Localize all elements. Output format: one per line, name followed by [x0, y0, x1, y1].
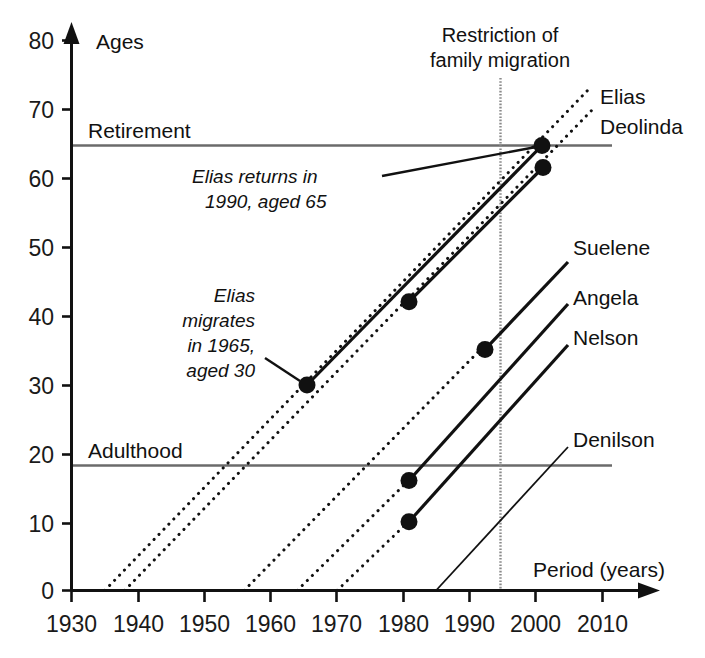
- y-tick-label: 50: [28, 235, 54, 261]
- annot-migrates-line4: aged 30: [186, 360, 255, 381]
- deolinda-point-1980: [401, 293, 418, 310]
- x-tick-label: 1940: [113, 611, 164, 637]
- axes: [62, 22, 660, 602]
- series-elias: Elias: [105, 85, 646, 591]
- series-nelson: Nelson: [337, 326, 638, 591]
- series-label-denilson: Denilson: [573, 428, 655, 451]
- y-tick-label: 60: [28, 166, 54, 192]
- annot-migrates-line2: migrates: [182, 310, 255, 331]
- nelson-solid-segment: [409, 345, 568, 522]
- elias-point-1965: [299, 377, 316, 394]
- y-tick-label: 10: [28, 511, 54, 537]
- y-tick-label: 20: [28, 442, 54, 468]
- suelene-solid-segment: [485, 262, 568, 349]
- retirement-label: Retirement: [88, 119, 191, 142]
- elias-point-2000: [534, 137, 551, 154]
- series-label-suelene: Suelene: [573, 236, 650, 259]
- x-tick-label: 1960: [245, 611, 296, 637]
- y-tick-label: 30: [28, 373, 54, 399]
- elias-dotted-segment-2: [311, 90, 588, 377]
- annot-returns-line2: 1990, aged 65: [205, 191, 327, 212]
- angela-dotted-segment: [297, 484, 405, 591]
- x-axis-arrow: [638, 583, 660, 599]
- chart-canvas: 80 70 60 50 40 30 20 10 0 1930 1940 1950…: [0, 0, 705, 658]
- x-tick-labels: 1930 1940 1950 1960 1970 1980 1990 2000 …: [46, 611, 628, 637]
- event-title-line1: Restriction of: [442, 24, 559, 46]
- annotation-elias-migrates: Elias migrates in 1965, aged 30: [182, 285, 300, 381]
- y-tick-label: 70: [28, 97, 54, 123]
- x-tick-label: 1930: [46, 611, 97, 637]
- y-tick-label: 80: [28, 28, 54, 54]
- x-tick-label: 2010: [577, 611, 628, 637]
- angela-point-1980: [401, 472, 418, 489]
- suelene-point-1991: [477, 341, 494, 358]
- deolinda-point-2000: [535, 159, 552, 176]
- angela-solid-segment: [409, 304, 568, 481]
- nelson-dotted-segment: [337, 525, 405, 591]
- life-course-chart: 80 70 60 50 40 30 20 10 0 1930 1940 1950…: [0, 0, 705, 658]
- x-tick-label: 1970: [311, 611, 362, 637]
- annot-returns-line1: Elias returns in: [192, 166, 318, 187]
- x-tick-label: 1950: [179, 611, 230, 637]
- suelene-dotted-segment: [244, 349, 481, 591]
- x-tick-label: 2000: [510, 611, 561, 637]
- adulthood-label: Adulthood: [88, 439, 183, 462]
- annot-migrates-leader: [265, 358, 300, 381]
- series-label-nelson: Nelson: [573, 326, 638, 349]
- series-label-deolinda: Deolinda: [600, 115, 683, 138]
- y-axis-title: Ages: [96, 30, 144, 53]
- annot-migrates-line3: in 1965,: [187, 335, 255, 356]
- annot-returns-leader: [382, 147, 536, 176]
- deolinda-solid-segment: [409, 168, 543, 302]
- annot-migrates-line1: Elias: [214, 285, 256, 306]
- y-tick-labels: 80 70 60 50 40 30 20 10 0: [28, 28, 54, 604]
- x-axis-title: Period (years): [533, 558, 665, 581]
- x-tick-label: 1990: [444, 611, 495, 637]
- y-tick-label: 40: [28, 304, 54, 330]
- nelson-point-1980: [401, 513, 418, 530]
- restriction-event-title: Restriction of family migration: [430, 24, 570, 71]
- y-tick-label: 0: [41, 578, 54, 604]
- elias-solid-segment: [307, 146, 542, 386]
- x-tick-label: 1980: [378, 611, 429, 637]
- series-label-elias: Elias: [600, 85, 646, 108]
- series-label-angela: Angela: [573, 286, 639, 309]
- event-title-line2: family migration: [430, 49, 570, 71]
